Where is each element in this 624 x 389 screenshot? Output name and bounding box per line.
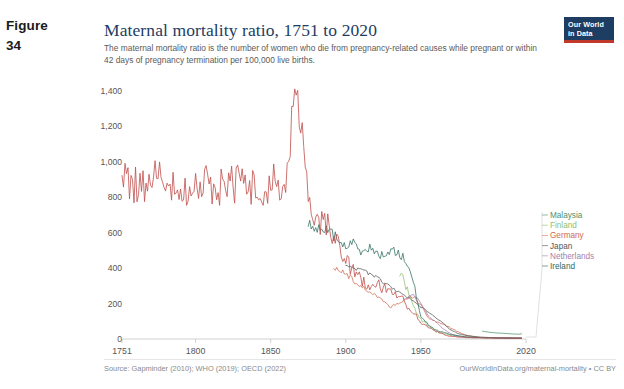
chart-subtitle: The maternal mortality ratio is the numb… (104, 42, 544, 66)
series-line-japan[interactable] (346, 265, 522, 338)
series-layer (122, 89, 521, 339)
x-axis-tick-label: 1800 (186, 346, 206, 356)
figure-caption: Figure 34 (6, 16, 76, 55)
line-chart-svg (96, 74, 620, 349)
series-line-ireland[interactable] (308, 220, 521, 338)
y-axis-tick-label: 0 (82, 334, 122, 344)
y-axis-tick-label: 1,400 (82, 86, 122, 96)
series-line-malaysia[interactable] (482, 331, 521, 334)
legend-leader-hook (526, 269, 542, 337)
y-axis-tick-label: 400 (82, 263, 122, 273)
chart-legend: MalaysiaFinlandGermanyJapanNetherlandsIr… (550, 211, 620, 272)
chart-footer: Source: Gapminder (2010); WHO (2019); OE… (96, 364, 620, 378)
logo-line-2: in Data (568, 29, 610, 38)
series-line-netherlands[interactable] (406, 294, 522, 338)
our-world-in-data-logo[interactable]: Our World in Data (564, 17, 614, 43)
figure-caption-word: Figure (6, 18, 48, 33)
x-axis-tick-label: 1900 (336, 346, 356, 356)
y-axis-tick-label: 1,000 (82, 157, 122, 167)
attribution-note[interactable]: OurWorldInData.org/maternal-mortality • … (460, 364, 616, 373)
y-axis-tick-label: 800 (82, 192, 122, 202)
legend-leader-lines (526, 212, 548, 337)
plot-area: 02004006008001,0001,2001,400 17511800185… (96, 74, 620, 349)
footer-divider (104, 359, 616, 360)
series-line-sweden[interactable] (122, 89, 521, 338)
logo-line-1: Our World (568, 20, 610, 29)
legend-item-japan[interactable]: Japan (550, 242, 620, 252)
legend-item-malaysia[interactable]: Malaysia (550, 211, 620, 221)
y-axis-tick-label: 1,200 (82, 121, 122, 131)
y-axis-tick-label: 200 (82, 299, 122, 309)
x-axis-tick-label: 2020 (516, 346, 536, 356)
y-axis-tick-label: 600 (82, 228, 122, 238)
x-axis-tick-label: 1950 (411, 346, 431, 356)
figure-caption-number: 34 (6, 36, 76, 56)
axis-layer (122, 339, 526, 343)
legend-item-netherlands[interactable]: Netherlands (550, 252, 620, 262)
x-axis-tick-label: 1850 (261, 346, 281, 356)
figure-page: Figure 34 Maternal mortality ratio, 1751… (0, 0, 624, 389)
legend-item-ireland[interactable]: Ireland (550, 262, 620, 272)
chart-card: Maternal mortality ratio, 1751 to 2020 T… (96, 6, 620, 384)
source-note: Source: Gapminder (2010); WHO (2019); OE… (104, 364, 286, 373)
legend-item-finland[interactable]: Finland (550, 221, 620, 231)
x-axis-tick-label: 1751 (112, 346, 132, 356)
legend-item-germany[interactable]: Germany (550, 231, 620, 241)
chart-title: Maternal mortality ratio, 1751 to 2020 (104, 20, 377, 41)
